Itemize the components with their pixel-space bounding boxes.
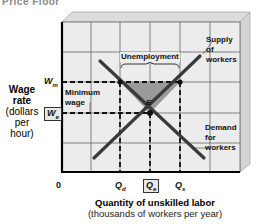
qd-sub: d bbox=[122, 186, 126, 192]
ylabel-line: (dollars bbox=[2, 106, 42, 117]
supply-label-line: Supply bbox=[206, 35, 237, 45]
we-tick: We bbox=[44, 107, 62, 121]
equilibrium-point bbox=[147, 110, 153, 116]
qe-tick: Qe bbox=[143, 179, 159, 193]
qd-main: Q bbox=[115, 180, 122, 190]
qd-tick: Qd bbox=[115, 180, 126, 192]
wm-tick: Wm bbox=[44, 76, 58, 88]
wm-main: W bbox=[44, 76, 53, 86]
demand-label-line: for bbox=[205, 133, 237, 143]
y-axis-label: Wage rate (dollars per hour) bbox=[2, 84, 42, 139]
xlabel-line: (thousands of workers per year) bbox=[60, 208, 250, 219]
we-main: W bbox=[47, 108, 56, 118]
qs-sub: s bbox=[182, 186, 185, 192]
supply-label-line: workers bbox=[206, 55, 237, 65]
ylabel-line: per bbox=[2, 117, 42, 128]
qs-main: Q bbox=[175, 180, 182, 190]
supply-label: Supply of workers bbox=[206, 35, 237, 65]
we-sub: e bbox=[56, 114, 59, 120]
frame-top-bevel bbox=[62, 12, 250, 22]
demand-label-line: Demand bbox=[205, 123, 237, 133]
min-wage-label-line: Minimum bbox=[65, 88, 100, 98]
supply-label-line: of bbox=[206, 45, 237, 55]
minimum-wage-label: Minimum wage bbox=[65, 88, 100, 108]
demand-label: Demand for workers bbox=[205, 123, 237, 153]
origin-tick: 0 bbox=[56, 180, 61, 190]
demand-label-line: workers bbox=[205, 143, 237, 153]
min-wage-label-line: wage bbox=[65, 98, 100, 108]
wm-sub: m bbox=[53, 82, 58, 88]
qd-point bbox=[117, 79, 122, 84]
qe-main: Q bbox=[146, 180, 153, 190]
ylabel-line: hour) bbox=[2, 128, 42, 139]
ylabel-line: rate bbox=[2, 95, 42, 106]
qs-tick: Qs bbox=[175, 180, 185, 192]
ylabel-line: Wage bbox=[2, 84, 42, 95]
frame-right-bevel bbox=[240, 12, 250, 172]
qe-sub: e bbox=[153, 186, 156, 192]
unemployment-label: Unemployment bbox=[120, 52, 180, 62]
equilibrium-label: E bbox=[146, 98, 151, 107]
xlabel-line: Quantity of unskilled labor bbox=[60, 197, 250, 208]
qs-point bbox=[177, 79, 182, 84]
x-axis-label: Quantity of unskilled labor (thousands o… bbox=[60, 197, 250, 219]
